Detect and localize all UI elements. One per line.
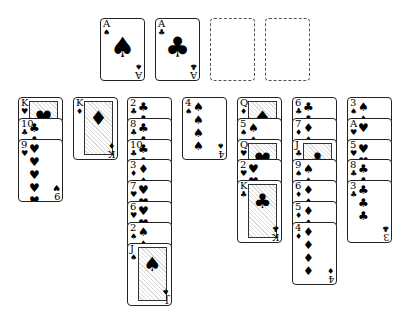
playing-card[interactable]: K♦♦K♦ [73, 97, 118, 160]
playing-card[interactable]: 9♥♥♥♥♥♥♥♥♥♥9♥ [18, 139, 63, 202]
suit-icon: ♣ [156, 33, 199, 63]
card-rank: 4 [328, 274, 334, 284]
suit-pips-icon: ♣♣♣ [358, 184, 387, 223]
foundation-empty-slot[interactable] [265, 18, 310, 81]
card-rank: K [272, 232, 279, 242]
card-rank: A [135, 70, 142, 80]
suit-icon: ♣ [249, 189, 276, 213]
suit-icon: ♥ [350, 129, 357, 137]
card-rank: K [108, 149, 115, 159]
suit-icon: ♥ [21, 150, 28, 158]
suit-icon: ♥ [130, 212, 137, 220]
card-rank: 4 [218, 149, 224, 159]
suit-icon: ♦ [295, 212, 302, 220]
card-rank: A [190, 70, 197, 80]
suit-icon: ♣ [295, 108, 302, 116]
playing-card[interactable]: 4♠♠♠♠♠4♠ [182, 97, 227, 160]
playing-card[interactable]: 3♣♣♣♣3♣ [347, 180, 392, 243]
suit-icon: ♣ [21, 129, 28, 137]
suit-icon: ♦ [130, 170, 137, 178]
suit-icon: ♠ [217, 141, 224, 149]
suit-icon: ♠ [130, 233, 137, 241]
suit-icon: ♥ [350, 150, 357, 158]
suit-icon: ♣ [240, 191, 247, 199]
suit-icon: ♣ [130, 129, 137, 137]
suit-icon: ♠ [101, 33, 144, 63]
suit-icon: ♦ [295, 129, 302, 137]
suit-icon: ♠ [130, 254, 137, 262]
card-rank: 3 [383, 232, 389, 242]
suit-icon: ♣ [350, 191, 357, 199]
suit-icon: ♣ [130, 150, 137, 158]
suit-icon: ♦ [76, 108, 83, 116]
suit-icon: ♠ [350, 108, 357, 116]
suit-icon: ♥ [21, 108, 28, 116]
foundation-empty-slot[interactable] [210, 18, 255, 81]
playing-card[interactable]: J♠♠J♠ [127, 243, 172, 306]
card-rank: 9 [54, 191, 60, 201]
playing-card[interactable]: A♠♠A♠ [100, 18, 145, 81]
suit-icon: ♠ [139, 252, 166, 276]
suit-icon: ♣ [382, 224, 389, 232]
suit-icon: ♣ [130, 108, 137, 116]
suit-icon: ♦ [85, 106, 112, 130]
suit-pips-icon: ♥ [358, 122, 387, 135]
suit-icon: ♠ [185, 108, 192, 116]
suit-icon: ♣ [350, 170, 357, 178]
suit-icon: ♦ [108, 141, 115, 149]
suit-icon: ♠ [295, 170, 302, 178]
suit-icon: ♠ [162, 287, 169, 295]
suit-icon: ♥ [53, 183, 60, 191]
suit-icon: ♣ [295, 150, 302, 158]
suit-icon: ♦ [295, 233, 302, 241]
playing-card[interactable]: K♣♣K♣ [237, 180, 282, 243]
suit-icon: ♥ [240, 170, 247, 178]
playing-card[interactable]: 4♦♦♦♦♦4♦ [292, 222, 337, 285]
suit-icon: ♠ [135, 62, 142, 70]
suit-icon: ♦ [327, 266, 334, 274]
suit-icon: ♣ [272, 224, 279, 232]
card-rank: J [165, 295, 169, 305]
playing-card[interactable]: A♣♣A♣ [155, 18, 200, 81]
suit-icon: ♥ [130, 191, 137, 199]
suit-icon: ♠ [240, 129, 247, 137]
suit-icon: ♦ [295, 191, 302, 199]
suit-icon: ♦ [240, 108, 247, 116]
suit-icon: ♣ [190, 62, 197, 70]
suit-icon: ♥ [240, 150, 247, 158]
